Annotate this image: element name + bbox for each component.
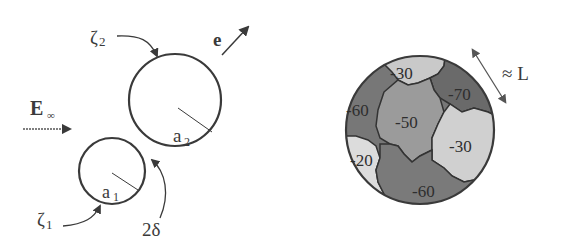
svg-text:a: a — [173, 125, 182, 146]
patch-label-left: -60 — [346, 101, 369, 120]
length-scale-label: ≈ L — [502, 63, 529, 84]
patch-label-bottom: -60 — [412, 182, 435, 201]
svg-text:∞: ∞ — [47, 109, 55, 121]
potential-label-large: ζ 2 — [90, 27, 106, 49]
radius-line-large — [178, 108, 212, 132]
field-label: E ∞ — [30, 97, 55, 121]
patchy-particle-diagram: -30 -70 -60 -50 -30 -20 -60 ≈ L — [340, 50, 529, 215]
gap-arrow-icon — [152, 160, 166, 218]
potential-arrow-small-icon — [63, 206, 100, 226]
patch-label-lower-left: -20 — [350, 151, 373, 170]
figure-canvas: E ∞ e a 2 a 1 ζ 2 ζ 1 — [0, 0, 563, 252]
potential-label-small: ζ 1 — [37, 209, 53, 232]
radius-line-small — [112, 173, 138, 190]
particle-small — [79, 138, 145, 204]
patch-label-center: -50 — [395, 113, 418, 132]
svg-text:E: E — [30, 97, 43, 119]
patch-label-upper-right: -70 — [448, 85, 471, 104]
svg-text:ζ: ζ — [90, 27, 98, 48]
radius-label-small: a 1 — [102, 182, 119, 204]
patch-label-right: -30 — [449, 137, 472, 156]
svg-text:2: 2 — [184, 135, 190, 149]
svg-text:a: a — [102, 182, 110, 202]
svg-text:1: 1 — [46, 217, 53, 232]
two-particle-diagram: E ∞ e a 2 a 1 ζ 2 ζ 1 — [23, 27, 248, 240]
direction-label: e — [213, 29, 221, 50]
potential-arrow-large-icon — [117, 36, 157, 56]
svg-text:ζ: ζ — [37, 209, 45, 230]
direction-arrow-icon — [222, 27, 248, 55]
gap-label: 2δ — [142, 219, 161, 240]
svg-text:1: 1 — [113, 190, 119, 204]
svg-text:2: 2 — [99, 34, 106, 49]
patch-label-top: -30 — [390, 64, 413, 83]
